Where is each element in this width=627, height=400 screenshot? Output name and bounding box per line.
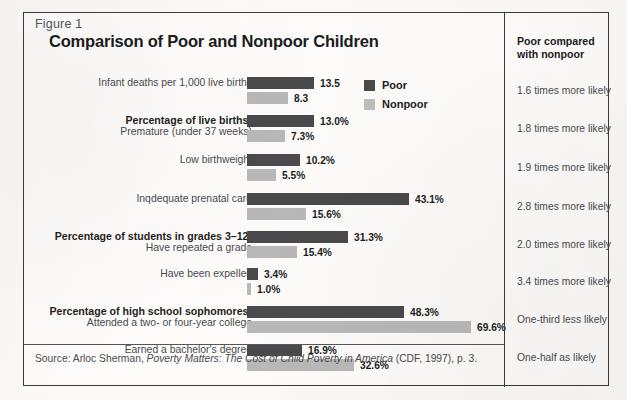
bar-value-poor: 13.0% — [320, 116, 349, 127]
row-label-sub: Low birthweight — [180, 154, 252, 166]
source-rule — [24, 344, 504, 345]
row-label-header: Percentage of students in grades 3–12: — [55, 230, 252, 242]
figure-page: Figure 1 Comparison of Poor and Nonpoor … — [0, 0, 627, 400]
bar-poor — [247, 115, 314, 127]
comparison-item: 1.6 times more likely — [517, 85, 611, 96]
bar-poor — [247, 77, 314, 89]
bar-chart-plot-area: Infant deaths per 1,000 live births13.58… — [24, 13, 504, 387]
comparison-column-heading: Poor compared with nonpoor — [517, 35, 613, 61]
bar-poor — [247, 268, 258, 280]
row-label: Percentage of live births:Premature (und… — [120, 114, 252, 139]
row-label: Percentage of students in grades 3–12:Ha… — [55, 230, 252, 255]
bar-value-nonpoor: 15.4% — [303, 247, 332, 258]
source-note: Source: Arloc Sherman, Poverty Matters: … — [35, 353, 477, 364]
row-label-sub: Premature (under 37 weeks) — [120, 126, 252, 138]
bar-poor — [247, 231, 348, 243]
legend-item-nonpoor: Nonpoor — [364, 98, 428, 110]
bar-value-nonpoor: 5.5% — [282, 170, 305, 181]
bar-value-poor: 13.5 — [320, 78, 340, 89]
bar-value-nonpoor: 8.3 — [294, 93, 308, 104]
bar-value-poor: 48.3% — [410, 307, 439, 318]
bar-poor — [247, 154, 300, 166]
row-label: Low birthweight — [180, 154, 252, 166]
comparison-item: 3.4 times more likely — [517, 276, 611, 287]
source-suffix: (CDF, 1997), p. 3. — [393, 353, 477, 364]
source-title: Poverty Matters: The Cost of Child Pover… — [147, 353, 393, 364]
row-label: Inqdequate prenatal care — [136, 193, 252, 205]
comparison-heading-line2: with nonpoor — [517, 48, 584, 60]
bar-nonpoor — [247, 130, 285, 142]
comparison-item: 1.8 times more likely — [517, 123, 611, 134]
comparison-heading-line1: Poor compared — [517, 35, 595, 47]
legend-label-nonpoor: Nonpoor — [382, 98, 428, 110]
row-label: Have been expelled — [160, 268, 252, 280]
row-label: Infant deaths per 1,000 live births — [98, 77, 252, 89]
bar-nonpoor — [247, 92, 288, 104]
row-label-sub: Infant deaths per 1,000 live births — [98, 77, 252, 89]
bar-value-nonpoor: 69.6% — [477, 322, 506, 333]
legend-swatch-nonpoor-icon — [364, 99, 375, 110]
chart-legend: Poor Nonpoor — [364, 79, 428, 117]
bar-poor — [247, 306, 404, 318]
comparison-column: Poor compared with nonpoor 1.6 times mor… — [506, 13, 610, 387]
bar-value-poor: 31.3% — [354, 232, 383, 243]
bar-value-nonpoor: 1.0% — [257, 284, 280, 295]
figure-frame: Figure 1 Comparison of Poor and Nonpoor … — [23, 12, 609, 386]
comparison-item: One-half as likely — [517, 352, 596, 363]
row-label: Percentage of high school sophomores:Att… — [50, 305, 253, 330]
comparison-item: 2.8 times more likely — [517, 201, 611, 212]
bar-nonpoor — [247, 169, 276, 181]
row-label-header: Percentage of high school sophomores: — [50, 305, 253, 317]
bar-value-poor: 3.4% — [264, 269, 287, 280]
bar-poor — [247, 193, 409, 205]
source-prefix: Source: Arloc Sherman, — [35, 353, 147, 364]
comparison-item: 1.9 times more likely — [517, 162, 611, 173]
bar-nonpoor — [247, 208, 306, 220]
row-label-sub: Have been expelled — [160, 268, 252, 280]
row-label-sub: Have repeated a grade — [55, 242, 252, 254]
bar-value-nonpoor: 15.6% — [312, 209, 341, 220]
bar-nonpoor — [247, 321, 471, 333]
comparison-item: 2.0 times more likely — [517, 239, 611, 250]
row-label-header: Percentage of live births: — [120, 114, 252, 126]
bar-nonpoor — [247, 246, 297, 258]
bar-value-poor: 43.1% — [415, 194, 444, 205]
legend-label-poor: Poor — [382, 79, 407, 91]
row-label-sub: Inqdequate prenatal care — [136, 193, 252, 205]
bar-nonpoor — [247, 283, 251, 295]
bar-value-poor: 10.2% — [306, 155, 335, 166]
comparison-item: One-third less likely — [517, 314, 607, 325]
legend-item-poor: Poor — [364, 79, 428, 91]
row-label-sub: Attended a two- or four-year college — [50, 317, 253, 329]
legend-swatch-poor-icon — [364, 80, 375, 91]
bar-value-nonpoor: 7.3% — [291, 131, 314, 142]
